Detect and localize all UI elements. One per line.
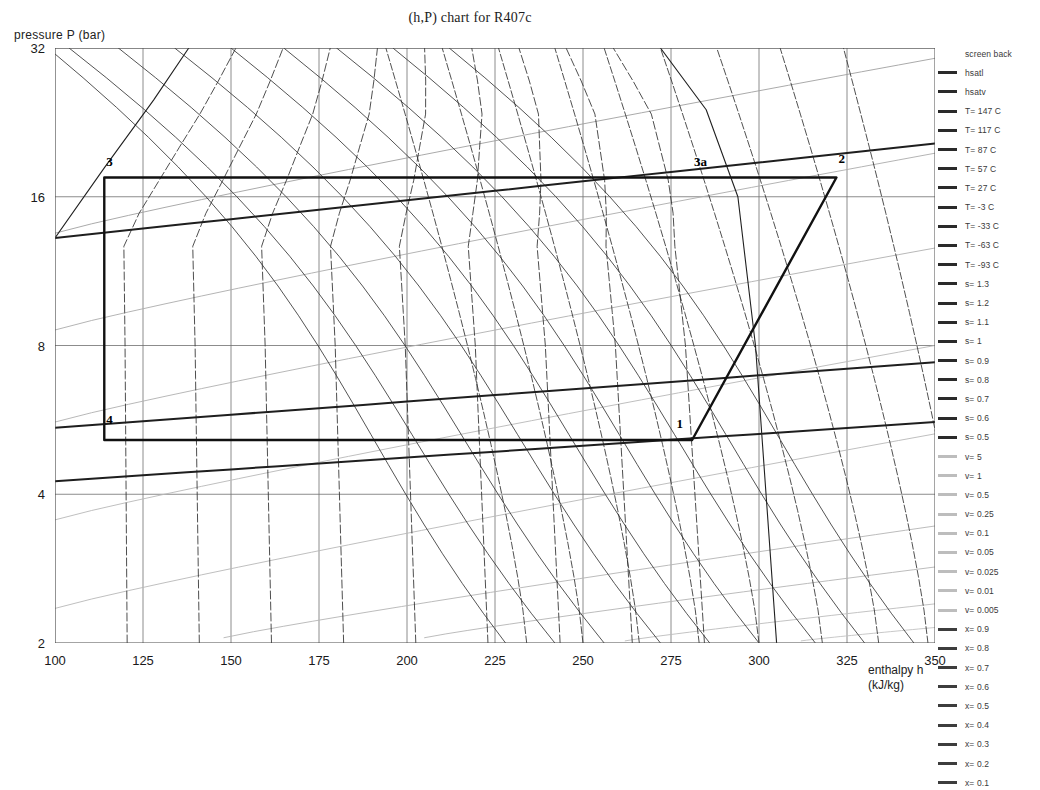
legend-swatch-icon xyxy=(938,397,957,400)
legend-entry[interactable]: hsatl xyxy=(938,63,1040,82)
legend-entry[interactable]: v= 0.5 xyxy=(938,485,1040,504)
legend-entry[interactable]: s= 1.1 xyxy=(938,313,1040,332)
legend-swatch-icon xyxy=(938,762,957,765)
legend-swatch-icon xyxy=(938,206,957,209)
legend-entry[interactable]: T= 147 C xyxy=(938,102,1040,121)
legend-entry[interactable]: s= 0.6 xyxy=(938,409,1040,428)
legend-entry[interactable]: s= 0.8 xyxy=(938,370,1040,389)
legend-entry[interactable]: s= 0.9 xyxy=(938,351,1040,370)
legend-label: T= -3 C xyxy=(965,202,994,212)
legend-entry[interactable]: x= 0.8 xyxy=(938,639,1040,658)
isochore-line-0p05 xyxy=(224,526,935,638)
legend-entry[interactable]: s= 0.5 xyxy=(938,428,1040,447)
cycle-point-label-1: 1 xyxy=(677,416,684,432)
legend-label: s= 1.1 xyxy=(965,317,989,327)
x-tick-label-325: 325 xyxy=(836,653,858,668)
legend-swatch-icon xyxy=(938,570,957,573)
cycle-polygon xyxy=(104,178,836,441)
chart-title: (h,P) chart for R407c xyxy=(0,10,940,26)
legend-swatch-icon xyxy=(938,340,957,343)
legend-label: v= 1 xyxy=(965,471,982,481)
legend-label: v= 0.025 xyxy=(965,567,999,577)
legend-label: s= 1.2 xyxy=(965,298,989,308)
legend-entry[interactable]: s= 1.3 xyxy=(938,274,1040,293)
isochore-line-0p005 xyxy=(801,627,935,640)
legend-swatch-icon xyxy=(938,321,957,324)
legend-entry[interactable]: hsatv xyxy=(938,82,1040,101)
legend-swatch-icon xyxy=(938,666,957,669)
legend-entry[interactable]: T= 27 C xyxy=(938,178,1040,197)
legend-label: T= 117 C xyxy=(965,125,1000,135)
y-tick-label-16: 16 xyxy=(13,189,45,204)
x-axis-label-units: (kJ/kg) xyxy=(868,678,923,693)
legend-entry[interactable]: v= 0.1 xyxy=(938,524,1040,543)
legend-swatch-icon xyxy=(938,609,957,612)
legend-entry[interactable]: v= 0.025 xyxy=(938,562,1040,581)
cycle-point-label-3a: 3a xyxy=(694,154,707,170)
legend-swatch-icon xyxy=(938,129,957,132)
legend-entry[interactable]: x= 0.2 xyxy=(938,754,1040,773)
legend-entry[interactable]: s= 1 xyxy=(938,332,1040,351)
legend-swatch-icon xyxy=(938,513,957,516)
x-tick-label-200: 200 xyxy=(396,653,418,668)
legend-label: s= 1.3 xyxy=(965,279,989,289)
legend-label: T= 87 C xyxy=(965,145,996,155)
legend-label: T= 57 C xyxy=(965,164,996,174)
legend-swatch-icon xyxy=(938,704,957,707)
legend-entry[interactable]: x= 0.3 xyxy=(938,735,1040,754)
legend-entry[interactable]: screen back xyxy=(938,44,1040,63)
legend-swatch-icon xyxy=(938,436,957,439)
x-tick-label-125: 125 xyxy=(132,653,154,668)
legend-entry[interactable]: x= 0.7 xyxy=(938,658,1040,677)
legend-entry[interactable]: v= 5 xyxy=(938,447,1040,466)
y-tick-label-2: 2 xyxy=(13,636,45,651)
legend-entry[interactable]: x= 0.6 xyxy=(938,677,1040,696)
plot-area xyxy=(55,48,935,643)
x-tick-label-175: 175 xyxy=(308,653,330,668)
chart-canvas xyxy=(55,48,935,643)
legend-label: s= 0.7 xyxy=(965,394,989,404)
legend-swatch-icon xyxy=(938,148,957,151)
legend-swatch-icon xyxy=(938,167,957,170)
legend-entry[interactable]: x= 0.9 xyxy=(938,620,1040,639)
legend-entry[interactable]: x= 0.5 xyxy=(938,696,1040,715)
legend-label: x= 0.9 xyxy=(965,624,989,634)
legend-label: s= 1 xyxy=(965,336,982,346)
legend-label: v= 5 xyxy=(965,452,982,462)
cycle-path xyxy=(104,178,836,441)
legend-swatch-icon xyxy=(938,551,957,554)
legend-entry[interactable]: T= 57 C xyxy=(938,159,1040,178)
legend-label: hsatl xyxy=(965,68,983,78)
legend-entry[interactable]: T= 117 C xyxy=(938,121,1040,140)
legend-entry[interactable]: v= 0.005 xyxy=(938,600,1040,619)
legend-entry[interactable]: T= -33 C xyxy=(938,217,1040,236)
legend-label: v= 0.5 xyxy=(965,490,989,500)
legend-label: s= 0.8 xyxy=(965,375,989,385)
legend-entry[interactable]: v= 0.25 xyxy=(938,505,1040,524)
legend-swatch-icon xyxy=(938,647,957,650)
legend-entry[interactable]: x= 0.4 xyxy=(938,716,1040,735)
legend-entry[interactable]: s= 1.2 xyxy=(938,293,1040,312)
legend-entry[interactable]: v= 1 xyxy=(938,466,1040,485)
legend-entry[interactable]: v= 0.01 xyxy=(938,581,1040,600)
legend-entry[interactable]: T= 87 C xyxy=(938,140,1040,159)
y-tick-label-4: 4 xyxy=(13,487,45,502)
legend-label: screen back xyxy=(965,49,1012,59)
legend-entry[interactable]: s= 0.7 xyxy=(938,389,1040,408)
legend-entry[interactable]: T= -3 C xyxy=(938,198,1040,217)
legend-swatch-icon xyxy=(938,378,957,381)
legend-label: x= 0.6 xyxy=(965,682,989,692)
legend-entry[interactable]: T= -93 C xyxy=(938,255,1040,274)
legend-entry[interactable]: x= 0.1 xyxy=(938,773,1040,790)
cycle-point-label-2: 2 xyxy=(838,151,845,167)
legend-swatch-icon xyxy=(938,532,957,535)
x-axis-label: enthalpy h (kJ/kg) xyxy=(868,663,923,693)
grid-lines xyxy=(55,48,935,643)
legend-swatch-icon xyxy=(938,685,957,688)
legend-swatch-icon xyxy=(938,52,957,55)
legend-swatch-icon xyxy=(938,417,957,420)
legend-label: T= -93 C xyxy=(965,260,999,270)
x-axis-label-name: enthalpy h xyxy=(868,663,923,678)
legend-entry[interactable]: T= -63 C xyxy=(938,236,1040,255)
legend-entry[interactable]: v= 0.05 xyxy=(938,543,1040,562)
